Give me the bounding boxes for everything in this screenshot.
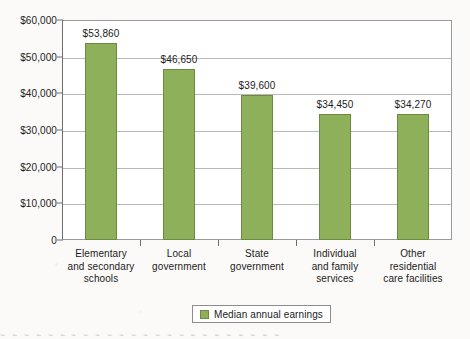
bar <box>85 43 117 240</box>
x-axis-category-label-line: care facilities <box>365 273 461 286</box>
x-axis-category-label-line: residential <box>365 261 461 274</box>
y-axis-tick-mark <box>57 240 63 241</box>
bar <box>319 114 351 240</box>
y-axis-tick-mark <box>57 203 63 204</box>
y-axis-tick-label: $60,000 <box>20 15 57 26</box>
bar <box>241 95 273 240</box>
legend: Median annual earnings <box>192 305 331 323</box>
x-axis-tick-mark <box>218 240 219 246</box>
x-axis-category-label-line: Other <box>365 248 461 261</box>
x-axis-category-label: Otherresidentialcare facilities <box>365 248 461 286</box>
chart-page: 0$10,000$20,000$30,000$40,000$50,000$60,… <box>0 0 470 339</box>
bar-value-label: $39,600 <box>217 80 297 91</box>
y-axis-tick-label: $30,000 <box>20 125 57 136</box>
y-axis: 0$10,000$20,000$30,000$40,000$50,000$60,… <box>0 0 57 339</box>
y-axis-tick-mark <box>57 56 63 57</box>
legend-label: Median annual earnings <box>214 309 323 320</box>
y-axis-tick-label: $40,000 <box>20 88 57 99</box>
bar <box>397 114 429 240</box>
bar-value-label: $34,450 <box>295 99 375 110</box>
bar-value-label: $53,860 <box>61 28 141 39</box>
y-axis-tick-mark <box>57 130 63 131</box>
page-bleed-text: ⌁ ⌁ ⌁ ⌁ ⌁ ⌁ ⌁ ⌁ ⌁ ⌁ ⌁ ⌁ ⌁ ⌁ ⌁ ⌁ ⌁ ⌁ ⌁ ⌁ … <box>0 330 470 339</box>
y-axis-tick-mark <box>57 166 63 167</box>
legend-swatch-icon <box>200 310 209 319</box>
x-axis-tick-mark <box>374 240 375 246</box>
x-axis-category-label-line: schools <box>53 273 149 286</box>
bar-value-label: $46,650 <box>139 54 219 65</box>
y-axis-tick-label: $20,000 <box>20 161 57 172</box>
y-axis-tick-mark <box>57 93 63 94</box>
bar-value-label: $34,270 <box>373 99 453 110</box>
x-axis-tick-mark <box>140 240 141 246</box>
y-axis-tick-label: $10,000 <box>20 198 57 209</box>
y-axis-tick-label: $50,000 <box>20 51 57 62</box>
bar <box>163 69 195 240</box>
gridline <box>63 58 451 59</box>
y-axis-tick-mark <box>57 20 63 21</box>
x-axis-tick-mark <box>296 240 297 246</box>
